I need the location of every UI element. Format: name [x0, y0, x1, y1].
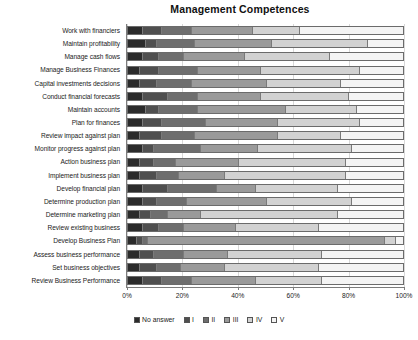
bar-segment — [318, 224, 403, 231]
stacked-bar — [127, 171, 404, 180]
bar-segment — [128, 80, 139, 87]
legend-swatch-icon — [271, 317, 277, 323]
bar-segment — [128, 67, 139, 74]
legend-swatch-icon — [203, 317, 209, 323]
x-axis-tick-label: 20% — [176, 292, 189, 299]
stacked-bar — [127, 118, 404, 127]
chart-legend: No answerIIIIIIIVV — [0, 316, 418, 323]
bar-segment — [128, 277, 142, 284]
x-axis-tick-label: 80% — [342, 292, 355, 299]
legend-label: II — [211, 316, 215, 323]
bar-segment — [158, 67, 197, 74]
bar-segment — [197, 67, 260, 74]
bar-segment — [145, 106, 159, 113]
stacked-bar — [127, 66, 404, 75]
bar-segment — [191, 277, 254, 284]
bar-segment — [197, 93, 260, 100]
bar-segment — [128, 264, 139, 271]
bar-segment — [128, 159, 139, 166]
stacked-bar — [127, 276, 404, 285]
bar-segment — [145, 40, 156, 47]
y-axis-label: Manage Business Finances — [40, 66, 120, 73]
bar-segment — [156, 40, 195, 47]
bar-segment — [161, 277, 191, 284]
bar-segment — [142, 119, 161, 126]
bar-segment — [161, 132, 194, 139]
bar-segment — [156, 198, 186, 205]
x-axis-tick-label: 0% — [122, 292, 132, 299]
bar-segment — [167, 211, 200, 218]
y-axis-label: Action business plan — [61, 158, 120, 165]
bar-segment — [205, 119, 277, 126]
bar-segment — [255, 185, 338, 192]
x-axis-tick — [238, 287, 239, 290]
bar-segment — [318, 264, 403, 271]
bar-segment — [337, 211, 403, 218]
y-axis-label: Develop financial plan — [57, 185, 120, 192]
bar-segment — [128, 93, 142, 100]
x-axis-tick — [404, 287, 405, 290]
bar-segment — [238, 159, 345, 166]
chart-title: Management Competences — [0, 3, 418, 15]
stacked-bar — [127, 184, 404, 193]
gridline — [182, 24, 183, 287]
bar-segment — [191, 80, 265, 87]
bar-segment — [175, 159, 238, 166]
legend-item: No answer — [134, 316, 175, 323]
stacked-bar — [127, 79, 404, 88]
y-axis-label: Set business objectives — [52, 264, 120, 271]
legend-swatch-icon — [184, 317, 190, 323]
y-axis-label: Implement business plan — [48, 172, 120, 179]
gridline — [127, 24, 128, 287]
legend-item: I — [184, 316, 194, 323]
bar-segment — [260, 67, 359, 74]
bar-segment — [139, 67, 158, 74]
bar-segment — [142, 185, 167, 192]
y-axis-label: Develop Business Plan — [53, 237, 120, 244]
legend-swatch-icon — [134, 317, 140, 323]
bar-segment — [142, 27, 161, 34]
bar-segment — [128, 53, 142, 60]
legend-item: II — [203, 316, 215, 323]
gridline — [404, 24, 405, 287]
bar-segment — [367, 40, 403, 47]
legend-swatch-icon — [224, 317, 230, 323]
plot-area — [127, 24, 404, 287]
y-axis-label: Review impact against plan — [41, 132, 120, 139]
bar-segment — [227, 251, 321, 258]
bar-segment — [224, 264, 318, 271]
bar-segment — [194, 40, 271, 47]
stacked-bar — [127, 52, 404, 61]
y-axis-label: Work with financiers — [62, 27, 120, 34]
bar-segment — [128, 211, 139, 218]
x-axis-tick — [349, 287, 350, 290]
bar-segment — [351, 145, 403, 152]
bar-segment — [183, 224, 235, 231]
y-axis-label: Determine marketing plan — [46, 211, 120, 218]
bar-segment — [128, 27, 142, 34]
bar-segment — [255, 277, 321, 284]
bar-segment — [139, 172, 156, 179]
bar-segment — [359, 119, 403, 126]
bar-segment — [139, 211, 150, 218]
bar-segment — [139, 264, 156, 271]
bar-segment — [128, 237, 136, 244]
gridline — [349, 24, 350, 287]
bar-segment — [158, 106, 197, 113]
bar-segment — [191, 27, 252, 34]
y-axis-label: Monitor progress against plan — [35, 145, 120, 152]
stacked-bar — [127, 223, 404, 232]
bar-segment — [139, 251, 153, 258]
bar-segment — [359, 67, 403, 74]
bar-segment — [194, 132, 277, 139]
bar-segment — [128, 172, 139, 179]
bar-segment — [128, 132, 139, 139]
bar-segment — [285, 106, 357, 113]
bar-segment — [147, 237, 384, 244]
bar-segment — [142, 198, 156, 205]
bar-segment — [128, 185, 142, 192]
legend-item: V — [271, 316, 284, 323]
bar-segment — [235, 224, 318, 231]
bar-segment — [180, 264, 224, 271]
x-axis-tick-label: 60% — [287, 292, 300, 299]
